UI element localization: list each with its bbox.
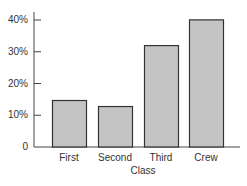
y-tick-label: 30% (2, 46, 28, 57)
bar-crew (190, 20, 224, 147)
y-tick-label: 20% (2, 78, 28, 89)
x-tick-label: Third (136, 152, 186, 163)
bar-second (99, 107, 133, 147)
x-axis-title: Class (113, 165, 173, 176)
y-tick-label: 10% (2, 109, 28, 120)
x-tick-label: Crew (181, 152, 231, 163)
x-tick-label: First (44, 152, 94, 163)
x-tick-label: Second (90, 152, 140, 163)
y-tick-label: 0 (2, 141, 28, 152)
bar-third (145, 46, 179, 147)
y-tick-label: 40% (2, 14, 28, 25)
bar-first (53, 101, 87, 147)
